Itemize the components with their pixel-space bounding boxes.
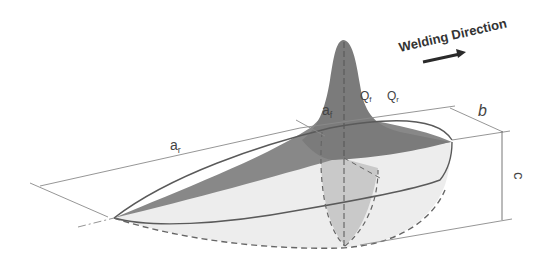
- label-c: c: [511, 172, 528, 180]
- direction-arrow-icon: [423, 49, 466, 62]
- dimension-line-b: [450, 108, 503, 132]
- double-ellipsoid-diagram: ar af b c Qf Qr Welding Direction: [0, 0, 545, 255]
- label-q-rear: Qr: [387, 89, 399, 104]
- label-a-rear: ar: [170, 137, 181, 155]
- label-q-front: Qf: [360, 89, 372, 104]
- extension-line-left: [30, 183, 108, 217]
- welding-direction-label: Welding Direction: [397, 15, 508, 54]
- heat-peak: [302, 40, 450, 160]
- extension-line-b: [452, 131, 510, 140]
- label-b: b: [478, 102, 487, 119]
- x-axis-dashdot: [78, 218, 114, 227]
